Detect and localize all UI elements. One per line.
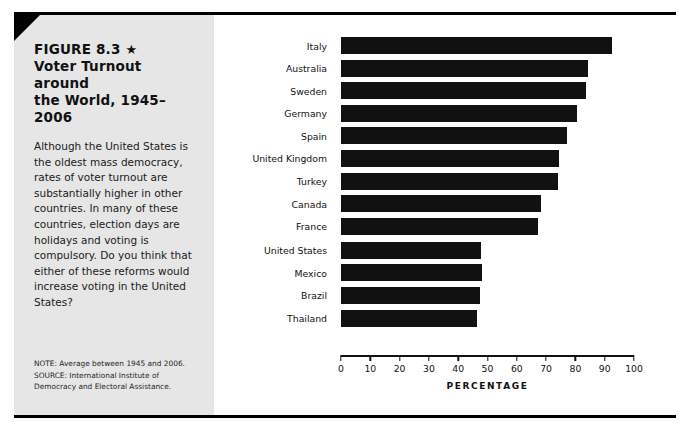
star-icon: ★: [125, 42, 137, 57]
x-axis-tick: [457, 355, 458, 361]
source-line-1: SOURCE: International Institute of: [34, 370, 206, 382]
chart-panel: ItalyAustraliaSwedenGermanySpainUnited K…: [214, 15, 676, 415]
x-axis-tick: [487, 355, 488, 361]
bar-fill: [341, 264, 482, 281]
bar-fill: [341, 195, 541, 212]
bar-fill: [341, 218, 538, 235]
x-axis-tick: [604, 355, 605, 361]
x-axis-tick-label: 100: [625, 363, 643, 374]
x-axis-tick-label: 60: [511, 363, 523, 374]
bar-track: [341, 173, 634, 190]
x-axis-title: PERCENTAGE: [341, 381, 634, 391]
figure-notes: NOTE: Average between 1945 and 2006. SOU…: [34, 358, 206, 393]
x-axis-tick: [428, 355, 429, 361]
bar-row: Mexico: [214, 264, 676, 281]
bar-row: Turkey: [214, 173, 676, 190]
bar-fill: [341, 105, 577, 122]
x-axis-tick: [545, 355, 546, 361]
x-axis-tick: [633, 355, 634, 361]
x-axis-tick: [399, 355, 400, 361]
figure-number: FIGURE 8.3: [34, 41, 121, 57]
x-axis-tick-label: 0: [338, 363, 344, 374]
bar-track: [341, 242, 634, 259]
bar-category-label: United States: [214, 245, 327, 256]
figure-container: FIGURE 8.3 ★ Voter Turnout around the Wo…: [14, 12, 676, 418]
bar-row: Sweden: [214, 82, 676, 99]
bar-track: [341, 195, 634, 212]
bar-track: [341, 127, 634, 144]
bar-track: [341, 150, 634, 167]
bar-category-label: Spain: [214, 130, 327, 141]
bar-row: Canada: [214, 195, 676, 212]
bar-category-label: Italy: [214, 40, 327, 51]
bar-row: France: [214, 218, 676, 235]
x-axis-tick: [370, 355, 371, 361]
x-axis-tick-label: 10: [364, 363, 376, 374]
bar-category-label: Australia: [214, 63, 327, 74]
bar-category-label: Brazil: [214, 290, 327, 301]
bar-fill: [341, 310, 477, 327]
note-line: NOTE: Average between 1945 and 2006.: [34, 358, 206, 370]
x-axis-tick: [516, 355, 517, 361]
x-axis: PERCENTAGE 0102030405060708090100: [341, 355, 634, 415]
bar-row: Italy: [214, 37, 676, 54]
bar-track: [341, 264, 634, 281]
x-axis-tick-label: 40: [452, 363, 464, 374]
bar-fill: [341, 150, 559, 167]
figure-title-line-1: Voter Turnout around: [34, 58, 142, 91]
bar-category-label: Turkey: [214, 176, 327, 187]
figure-description: Although the United States is the oldest…: [34, 139, 198, 311]
source-line-2: Democracy and Electoral Assistance.: [34, 381, 206, 393]
x-axis-tick-label: 90: [599, 363, 611, 374]
x-axis-tick: [340, 355, 341, 361]
figure-title: FIGURE 8.3 ★ Voter Turnout around the Wo…: [34, 41, 198, 126]
x-axis-tick-label: 50: [482, 363, 494, 374]
bar-fill: [341, 287, 480, 304]
x-axis-tick-label: 20: [394, 363, 406, 374]
bar-fill: [341, 127, 567, 144]
bar-row: Spain: [214, 127, 676, 144]
x-axis-tick-label: 30: [423, 363, 435, 374]
figure-title-line-2: the World, 1945–2006: [34, 92, 166, 125]
bar-fill: [341, 37, 612, 54]
caption-text-block: FIGURE 8.3 ★ Voter Turnout around the Wo…: [34, 41, 198, 311]
bar-track: [341, 310, 634, 327]
bar-fill: [341, 60, 588, 77]
bar-row: Germany: [214, 105, 676, 122]
bar-category-label: France: [214, 221, 327, 232]
bar-track: [341, 218, 634, 235]
x-axis-tick-label: 70: [540, 363, 552, 374]
bar-row: United States: [214, 242, 676, 259]
caption-panel: FIGURE 8.3 ★ Voter Turnout around the Wo…: [14, 15, 214, 415]
bar-fill: [341, 173, 558, 190]
x-axis-tick-label: 80: [569, 363, 581, 374]
bar-track: [341, 82, 634, 99]
bar-category-label: United Kingdom: [214, 153, 327, 164]
bar-category-label: Sweden: [214, 85, 327, 96]
bar-track: [341, 105, 634, 122]
bar-category-label: Germany: [214, 108, 327, 119]
corner-fold-decoration: [14, 15, 40, 41]
x-axis-tick: [575, 355, 576, 361]
bar-row: Brazil: [214, 287, 676, 304]
bar-track: [341, 37, 634, 54]
bar-row: Australia: [214, 60, 676, 77]
bar-chart-plot-area: ItalyAustraliaSwedenGermanySpainUnited K…: [214, 37, 676, 355]
bar-fill: [341, 82, 586, 99]
bar-category-label: Thailand: [214, 313, 327, 324]
bar-track: [341, 287, 634, 304]
bar-row: United Kingdom: [214, 150, 676, 167]
bar-category-label: Mexico: [214, 267, 327, 278]
bar-row: Thailand: [214, 310, 676, 327]
bar-track: [341, 60, 634, 77]
bar-fill: [341, 242, 481, 259]
bar-category-label: Canada: [214, 198, 327, 209]
